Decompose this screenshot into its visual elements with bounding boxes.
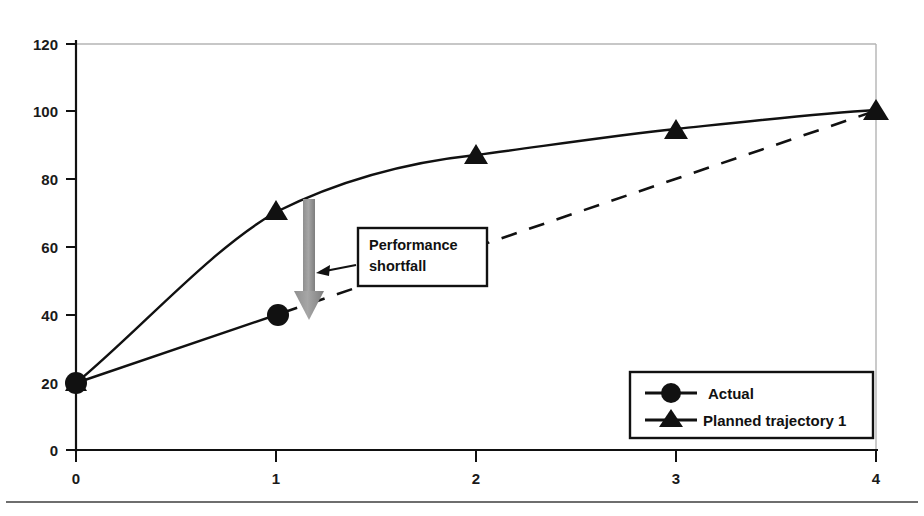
legend-label-actual: Actual — [708, 385, 754, 402]
x-axis — [74, 450, 878, 462]
annotation-line-2: shortfall — [369, 258, 426, 274]
chart-canvas: 120 100 80 60 40 20 0 0 1 2 3 4 — [0, 0, 924, 516]
y-tick-label: 80 — [41, 171, 58, 188]
x-tick-labels: 0 1 2 3 4 — [72, 470, 881, 487]
annotation-leader-arrowhead — [316, 265, 330, 276]
y-tick-label: 100 — [33, 103, 58, 120]
x-tick-label: 3 — [672, 470, 680, 487]
y-tick-label: 0 — [50, 442, 58, 459]
y-tick-label: 20 — [41, 375, 58, 392]
y-tick-label: 40 — [41, 307, 58, 324]
y-tick-labels: 120 100 80 60 40 20 0 — [33, 36, 58, 459]
circle-marker — [267, 304, 289, 326]
triangle-marker — [264, 200, 288, 220]
circle-marker — [65, 372, 87, 394]
circle-marker — [661, 383, 681, 403]
performance-shortfall-annotation: Performance shortfall — [316, 228, 487, 286]
x-tick-label: 2 — [472, 470, 480, 487]
y-tick-label: 120 — [33, 36, 58, 53]
annotation-line-1: Performance — [369, 237, 458, 253]
chart-legend: Actual Planned trajectory 1 — [630, 372, 873, 438]
y-tick-label: 60 — [41, 239, 58, 256]
performance-shortfall-line-chart: 120 100 80 60 40 20 0 0 1 2 3 4 — [0, 0, 924, 516]
x-tick-label: 0 — [72, 470, 80, 487]
series-actual — [76, 315, 276, 383]
x-tick-label: 4 — [872, 470, 881, 487]
x-tick-label: 1 — [272, 470, 280, 487]
performance-shortfall-arrow-icon — [294, 199, 324, 320]
legend-label-planned-trajectory-1: Planned trajectory 1 — [703, 412, 846, 429]
